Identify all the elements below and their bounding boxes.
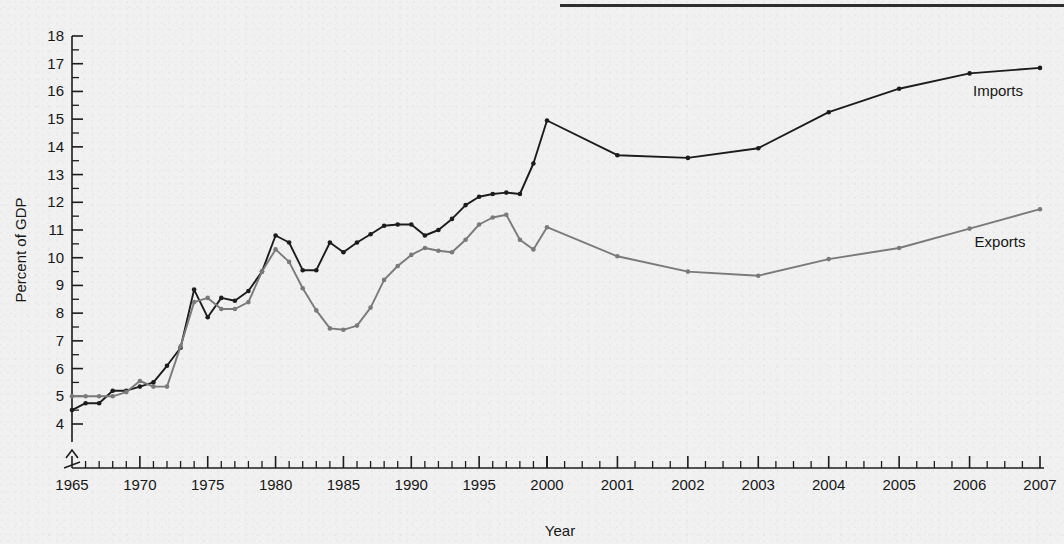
series-label-exports: Exports (975, 233, 1026, 250)
x-tick-label: 2003 (742, 476, 775, 493)
data-point-marker (756, 273, 761, 278)
data-point-marker (355, 323, 360, 328)
data-point-marker (545, 118, 550, 123)
data-point-marker (436, 228, 441, 233)
x-tick-label: 2002 (671, 476, 704, 493)
data-point-marker (531, 161, 536, 166)
data-point-marker (97, 394, 102, 399)
data-point-marker (382, 278, 387, 283)
data-point-marker (518, 192, 523, 197)
x-tick-label: 1990 (395, 476, 428, 493)
data-point-marker (165, 384, 170, 389)
x-tick-label: 1975 (191, 476, 224, 493)
y-tick-label: 16 (47, 82, 64, 99)
data-point-marker (504, 190, 509, 195)
y-tick-label: 12 (47, 193, 64, 210)
data-point-marker (1038, 207, 1043, 212)
data-point-marker (756, 146, 761, 151)
y-axis-title: Percent of GDP (12, 197, 29, 302)
x-tick-label: 2006 (953, 476, 986, 493)
y-tick-label: 4 (56, 415, 64, 432)
data-point-marker (395, 264, 400, 269)
y-axis: 456789101112131415161718 (47, 27, 83, 468)
data-point-marker (110, 394, 115, 399)
data-point-marker (463, 203, 468, 208)
y-tick-label: 15 (47, 110, 64, 127)
data-point-marker (409, 253, 414, 258)
y-tick-label: 17 (47, 55, 64, 72)
data-point-marker (165, 364, 170, 369)
x-tick-label: 1985 (327, 476, 360, 493)
data-point-marker (70, 394, 75, 399)
data-point-marker (967, 71, 972, 76)
data-point-marker (395, 222, 400, 227)
data-point-marker (615, 153, 620, 158)
data-point-marker (219, 307, 224, 312)
y-tick-label: 8 (56, 304, 64, 321)
data-point-marker (138, 379, 143, 384)
data-point-marker (83, 394, 88, 399)
data-point-marker (300, 286, 305, 291)
data-point-marker (219, 296, 224, 301)
data-point-marker (328, 326, 333, 331)
data-point-marker (477, 194, 482, 199)
data-point-marker (178, 344, 183, 349)
data-point-marker (287, 240, 292, 245)
data-point-marker (151, 384, 156, 389)
data-point-marker (205, 315, 210, 320)
data-point-marker (233, 298, 238, 303)
data-point-marker (192, 287, 197, 292)
y-tick-label: 11 (48, 221, 64, 238)
data-point-marker (826, 110, 831, 115)
data-point-marker (287, 260, 292, 265)
data-point-marker (273, 233, 278, 238)
x-tick-label: 2001 (601, 476, 634, 493)
data-point-marker (246, 289, 251, 294)
data-point-marker (477, 222, 482, 227)
x-tick-label: 2000 (530, 476, 563, 493)
data-point-marker (97, 401, 102, 406)
data-point-marker (83, 401, 88, 406)
data-point-marker (490, 192, 495, 197)
x-axis: 1965197019751980198519901995200020012002… (55, 456, 1056, 493)
data-point-marker (531, 247, 536, 252)
x-tick-label: 1995 (462, 476, 495, 493)
data-point-marker (368, 305, 373, 310)
series-label-imports: Imports (973, 82, 1023, 99)
data-point-marker (314, 268, 319, 273)
data-point-marker (138, 384, 143, 389)
x-tick-label: 2007 (1023, 476, 1056, 493)
data-point-marker (436, 249, 441, 254)
series-line-imports (72, 68, 1040, 410)
x-tick-label: 1970 (123, 476, 156, 493)
data-point-marker (686, 156, 691, 161)
data-point-marker (273, 247, 278, 252)
x-tick-label: 1965 (55, 476, 88, 493)
data-point-marker (341, 250, 346, 255)
data-point-marker (490, 215, 495, 220)
data-point-marker (70, 408, 75, 413)
x-tick-label: 2004 (812, 476, 845, 493)
data-point-marker (504, 213, 509, 218)
data-point-marker (450, 250, 455, 255)
data-point-marker (341, 328, 346, 333)
data-point-marker (368, 232, 373, 237)
y-tick-label: 13 (47, 166, 64, 183)
data-point-marker (463, 237, 468, 242)
data-point-marker (545, 225, 550, 230)
data-point-marker (246, 300, 251, 305)
data-point-marker (423, 233, 428, 238)
data-point-marker (124, 390, 129, 395)
data-point-marker (897, 86, 902, 91)
y-tick-label: 6 (56, 360, 64, 377)
data-point-marker (260, 269, 265, 274)
y-tick-label: 14 (47, 138, 64, 155)
data-point-marker (897, 246, 902, 251)
data-point-marker (328, 240, 333, 245)
data-point-marker (826, 257, 831, 262)
data-point-marker (423, 246, 428, 251)
data-point-marker (967, 226, 972, 231)
x-tick-label: 1980 (259, 476, 292, 493)
y-tick-label: 18 (47, 27, 64, 44)
x-tick-label: 2005 (882, 476, 915, 493)
